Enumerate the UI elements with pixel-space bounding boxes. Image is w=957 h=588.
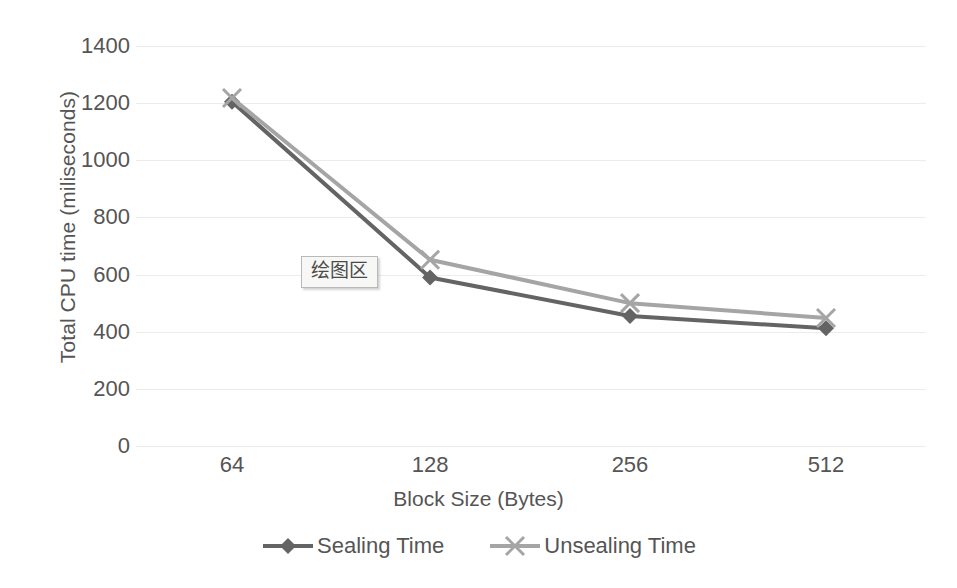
- x-axis-tick-label: 64: [220, 452, 244, 478]
- legend-label: Unsealing Time: [544, 533, 696, 559]
- x-axis-title: Block Size (Bytes): [0, 487, 957, 511]
- y-axis-tick-label: 400: [48, 321, 130, 343]
- plot-area-tooltip: 绘图区: [301, 256, 378, 288]
- series-sealing-time: [224, 94, 834, 337]
- y-axis-tick-label: 600: [48, 264, 130, 286]
- y-axis-tick-label: 1400: [48, 35, 130, 57]
- gridline: [136, 446, 926, 447]
- y-axis-tick-label: 1000: [48, 149, 130, 171]
- series-unsealing-time: [223, 89, 835, 327]
- legend-diamond-marker: [261, 534, 315, 558]
- x-axis-tick-label: 256: [612, 452, 649, 478]
- y-axis-tick-label: 0: [48, 435, 130, 457]
- series-line: [232, 102, 826, 329]
- y-axis-tick-label: 800: [48, 206, 130, 228]
- legend-item[interactable]: Unsealing Time: [488, 533, 696, 559]
- diamond-marker: [280, 538, 296, 554]
- legend-label: Sealing Time: [317, 533, 444, 559]
- chart-legend: Sealing TimeUnsealing Time: [0, 533, 957, 559]
- plot-area[interactable]: [136, 46, 926, 446]
- legend-x-marker: [488, 534, 542, 558]
- x-axis-tick-label: 128: [412, 452, 449, 478]
- x-axis-tick-labels: 64128256512: [136, 452, 926, 484]
- chart-container: Total CPU time (miliseconds) 14001200100…: [0, 0, 957, 588]
- series-plot: [136, 46, 926, 446]
- y-axis-tick-label: 200: [48, 378, 130, 400]
- y-axis-tick-label: 1200: [48, 92, 130, 114]
- legend-item[interactable]: Sealing Time: [261, 533, 444, 559]
- x-axis-tick-label: 512: [808, 452, 845, 478]
